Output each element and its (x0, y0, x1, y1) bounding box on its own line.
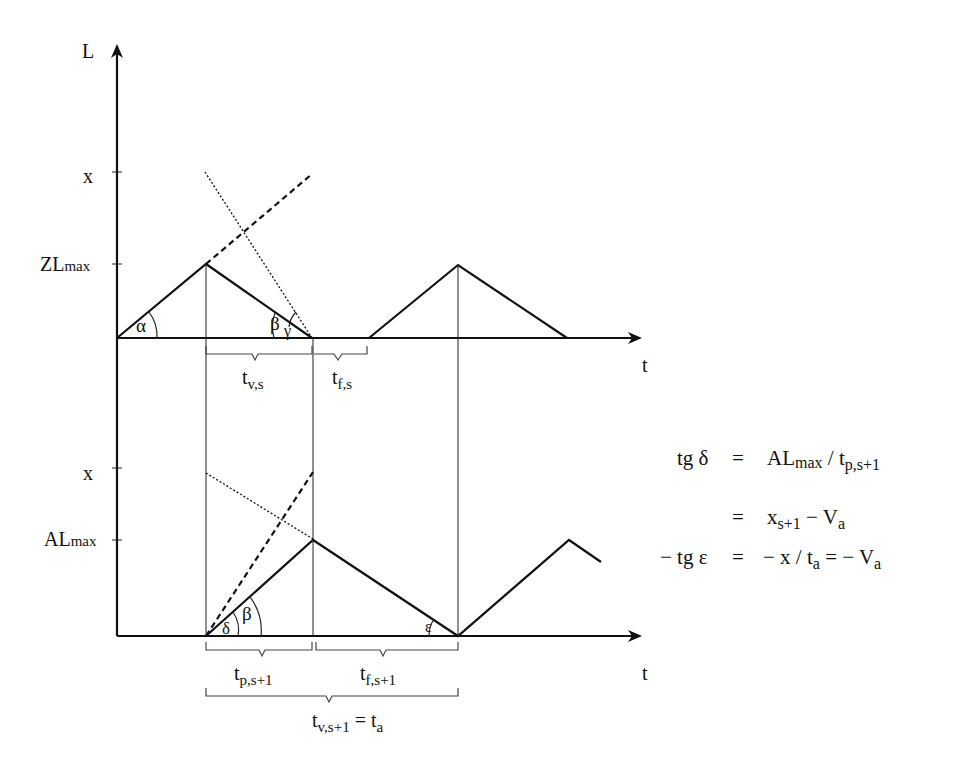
brace-tp (206, 642, 312, 656)
equation-line-2: =xs+1 − Va (732, 505, 845, 532)
brace-tf (316, 642, 458, 656)
equation-line-3: − tg ε=− x / ta = − Va (660, 545, 881, 572)
load-profile-bottom (206, 540, 601, 636)
dotted-line-bottom (206, 473, 313, 539)
angle-epsilon-label: ε (425, 618, 432, 635)
brace-label-tf-s: tf,s (332, 366, 352, 392)
angle-beta-label-bottom: β (242, 603, 252, 624)
brace-label-tf: tf,s+1 (360, 662, 396, 688)
angle-alpha-label: α (136, 315, 146, 336)
x-axis-label-bottom: t (642, 662, 648, 684)
brace-tf-s (314, 346, 367, 360)
tick-label-almax: ALmax (44, 528, 97, 550)
angle-delta-arc (233, 612, 239, 636)
tick-label-x-bottom: x (83, 462, 93, 484)
load-triangle-2 (369, 265, 567, 338)
angle-gamma-label: γ (283, 322, 291, 340)
angle-alpha-arc (149, 312, 157, 338)
brace-tv-s (206, 346, 312, 360)
top-panel (112, 172, 640, 636)
load-time-diagram: L x ZLmax α β γ t tv,s tf,s (0, 0, 967, 757)
brace-label-tv-s: tv,s (242, 366, 264, 392)
dotted-line-top (205, 172, 312, 338)
angle-beta-arc-bottom (250, 597, 261, 636)
dashed-extension-top (206, 174, 312, 264)
brace-label-tp: tp,s+1 (234, 662, 273, 688)
angle-delta-label: δ (222, 619, 230, 638)
x-axis-label-top: t (642, 354, 648, 376)
brace-total (206, 688, 458, 702)
brace-label-total: tv,s+1 = ta (312, 709, 383, 735)
load-triangle-1 (117, 264, 312, 338)
equation-line-1: tg δ=ALmax / tp,s+1 (677, 446, 880, 474)
tick-label-x-top: x (83, 165, 93, 187)
equations: tg δ=ALmax / tp,s+1 =xs+1 − Va − tg ε=− … (660, 446, 881, 572)
tick-label-zlmax: ZLmax (40, 253, 91, 275)
angle-beta-label: β (270, 313, 280, 334)
y-axis-label: L (82, 40, 94, 62)
bottom-panel (112, 468, 640, 702)
